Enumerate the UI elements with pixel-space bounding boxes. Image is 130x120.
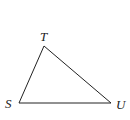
vertex-label-u: U	[116, 97, 127, 112]
triangle-diagram: T S U	[0, 0, 130, 120]
vertex-label-t: T	[40, 29, 48, 44]
triangle-stu	[19, 46, 111, 103]
vertex-label-s: S	[5, 96, 12, 111]
